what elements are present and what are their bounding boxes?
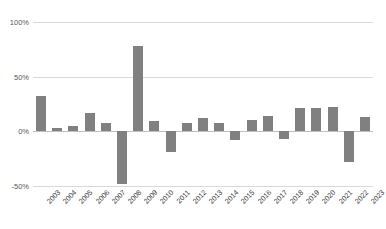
x-axis-tick-label: 2008 — [126, 188, 144, 206]
bar — [328, 107, 338, 131]
x-axis-tick-label: 2004 — [61, 188, 79, 206]
x-axis-tick-label: 2023 — [369, 188, 386, 206]
bar — [311, 108, 321, 131]
bar — [85, 113, 95, 132]
bar — [344, 131, 354, 162]
x-axis-tick-label: 2021 — [336, 188, 354, 206]
y-axis-tick-label: 50% — [14, 72, 29, 81]
x-axis-tick-label: 2012 — [190, 188, 208, 206]
bar — [166, 131, 176, 152]
bar — [263, 116, 273, 131]
x-axis-tick-label: 2013 — [207, 188, 225, 206]
x-axis-tick-label: 2006 — [93, 188, 111, 206]
y-axis-tick-label: 0% — [18, 127, 29, 136]
bar — [117, 131, 127, 183]
y-axis-tick-label: -50% — [11, 182, 29, 191]
bar — [295, 108, 305, 131]
bar — [52, 128, 62, 131]
x-axis-tick-label: 2005 — [77, 188, 95, 206]
x-axis-tick-label: 2011 — [174, 188, 191, 205]
bar — [36, 96, 46, 131]
x-axis-tick-label: 2003 — [45, 188, 63, 206]
bar-series-annual-return — [33, 22, 373, 186]
x-axis-tick-label: 2017 — [271, 188, 289, 206]
x-axis-tick-label: 2019 — [304, 188, 322, 206]
bar — [279, 131, 289, 139]
x-axis-tick-label: 2007 — [110, 188, 128, 206]
x-axis-tick-label: 2018 — [288, 188, 306, 206]
x-axis-tick-labels: 2003200420052006200720082009201020112012… — [33, 188, 373, 229]
bar — [360, 117, 370, 131]
bar — [133, 46, 143, 131]
x-axis-tick-label: 2022 — [352, 188, 370, 206]
x-axis-tick-label: 2016 — [255, 188, 273, 206]
bar — [68, 126, 78, 131]
y-axis-tick-label: 100% — [10, 18, 29, 27]
bar — [182, 123, 192, 132]
bar — [149, 121, 159, 131]
bar — [198, 118, 208, 131]
bar — [247, 120, 257, 131]
x-axis-tick-label: 2020 — [320, 188, 338, 206]
bar — [230, 131, 240, 140]
y-axis-tick-labels: 100%50%0%-50% — [0, 0, 31, 229]
bar — [101, 123, 111, 132]
gridline — [33, 186, 373, 187]
x-axis-tick-label: 2014 — [223, 188, 241, 206]
x-axis-tick-label: 2010 — [158, 188, 176, 206]
x-axis-tick-label: 2009 — [142, 188, 160, 206]
bar — [214, 123, 224, 132]
x-axis-tick-label: 2015 — [239, 188, 257, 206]
